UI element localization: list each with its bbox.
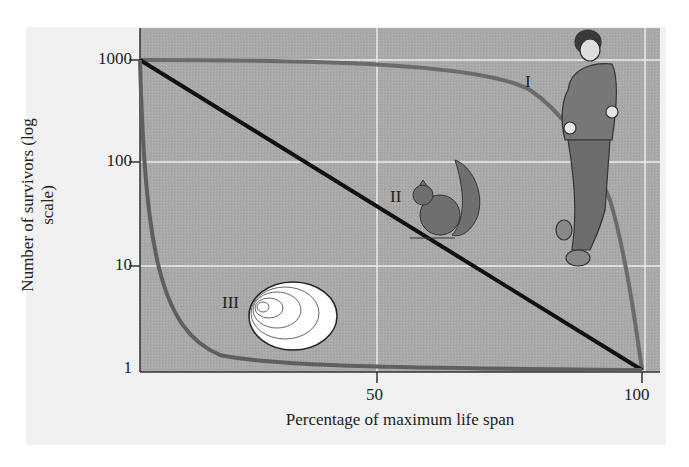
y-tick-10: 10 [62,255,132,275]
y-tick-100: 100 [62,151,132,171]
survivorship-plot [0,0,689,467]
y-axis-label: Number of survivors (log scale) [18,105,58,305]
x-tick-50: 50 [366,385,383,405]
curve-II-label: II [390,187,401,207]
y-tick-1000: 1000 [62,49,132,69]
oyster-icon [249,282,337,350]
x-axis-label: Percentage of maximum life span [140,410,660,430]
x-tick-100: 100 [624,385,650,405]
curve-III-label: III [222,293,239,313]
y-tick-1: 1 [62,358,132,378]
curve-I-label: I [525,72,531,92]
